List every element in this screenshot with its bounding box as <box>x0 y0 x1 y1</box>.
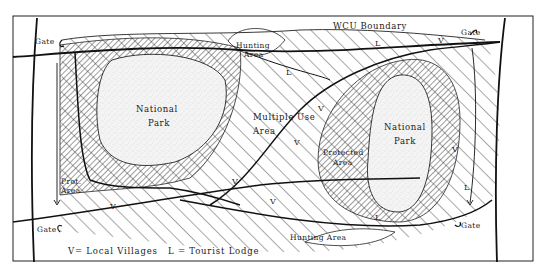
label-prot-area-left-2: Area <box>60 186 81 195</box>
village-symbol: V <box>451 145 458 154</box>
village-symbol: V <box>269 197 276 206</box>
label-prot-area-left-1: Prot. <box>61 177 82 186</box>
village-symbol: V <box>317 104 324 113</box>
label-protected-area-right-2: Area <box>332 158 353 167</box>
village-symbol: V <box>293 138 300 147</box>
label-national-park-right-2: Park <box>394 136 416 146</box>
label-hunting-area-bottom: Hunting Area <box>290 233 346 242</box>
label-hunting-area-top-2: Area <box>243 50 264 59</box>
label-national-park-left-2: Park <box>148 118 170 128</box>
legend-lodge: L = Tourist Lodge <box>168 246 259 256</box>
label-national-park-left-1: National <box>136 104 178 114</box>
wcu-zoning-diagram: WCU Boundary Hunting Area National Park … <box>0 0 552 277</box>
lodge-symbol: L <box>286 68 292 77</box>
village-symbol: V <box>231 177 238 186</box>
label-multiple-2: Area <box>252 126 276 136</box>
label-protected-area-right-1: Protected <box>323 148 364 157</box>
label-gate-top-right: Gate <box>461 28 481 37</box>
label-gate-top-left: Gate <box>35 37 55 46</box>
village-symbol: V <box>437 36 444 45</box>
label-hunting-area-top-1: Hunting <box>236 41 270 50</box>
lodge-symbol: L <box>464 183 470 192</box>
label-multiple-use: Use <box>297 112 315 122</box>
lodge-symbol: L <box>375 213 381 222</box>
label-gate-bottom-right: Gate <box>461 221 481 230</box>
label-national-park-right-1: National <box>384 122 426 132</box>
village-symbol: V <box>109 202 116 211</box>
lodge-symbol: L <box>375 39 381 48</box>
label-multiple-1: Multiple <box>253 112 294 122</box>
label-wcu-boundary: WCU Boundary <box>333 21 407 31</box>
label-gate-bottom-left: Gate <box>37 225 57 234</box>
legend-villages: V= Local Villages <box>67 246 158 256</box>
